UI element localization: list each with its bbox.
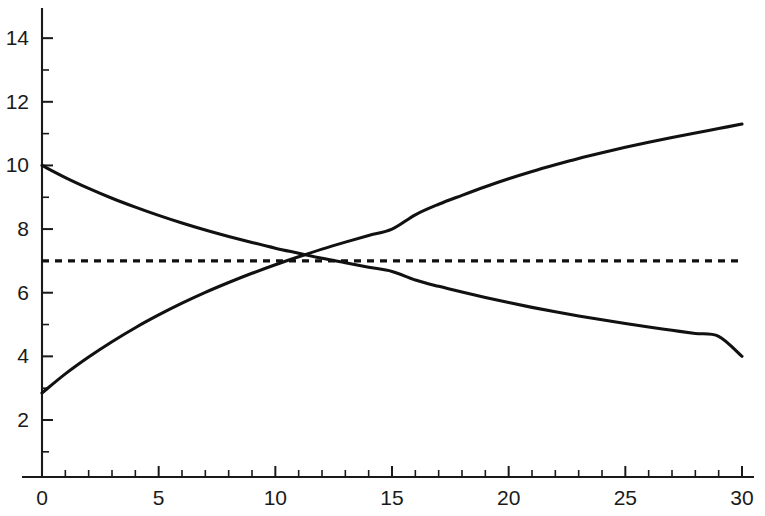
- axis-ticks: [42, 38, 742, 477]
- axes: [22, 8, 754, 477]
- y-tick-label: 12: [6, 90, 29, 113]
- series-rising-curve: [42, 124, 742, 393]
- y-tick-label: 14: [6, 26, 30, 49]
- line-chart: 2468101214051015202530: [0, 0, 765, 516]
- y-tick-label: 2: [17, 408, 29, 431]
- chart-figure: 2468101214051015202530: [0, 0, 765, 516]
- y-tick-label: 10: [6, 153, 29, 176]
- x-tick-label: 5: [153, 486, 165, 509]
- x-tick-label: 10: [264, 486, 287, 509]
- y-tick-label: 6: [17, 281, 29, 304]
- x-tick-label: 20: [497, 486, 520, 509]
- y-tick-label: 4: [17, 344, 29, 367]
- x-tick-label: 25: [614, 486, 637, 509]
- data-series: [42, 124, 742, 393]
- y-tick-label: 8: [17, 217, 29, 240]
- x-tick-label: 0: [36, 486, 48, 509]
- x-tick-label: 30: [730, 486, 753, 509]
- x-tick-label: 15: [380, 486, 403, 509]
